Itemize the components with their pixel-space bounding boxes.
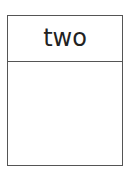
box-body bbox=[8, 62, 122, 165]
box-title: two bbox=[43, 26, 87, 50]
diagram-box: two bbox=[7, 15, 123, 166]
box-header: two bbox=[8, 16, 122, 62]
